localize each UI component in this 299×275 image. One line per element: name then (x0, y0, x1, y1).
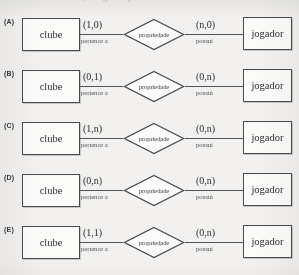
row-label: (E) (4, 226, 14, 233)
connector-line-left (80, 242, 123, 243)
entity-box-clube: clube (22, 174, 80, 207)
cardinality-right: (0,n) (196, 175, 215, 186)
entity-label-clube: clube (40, 185, 63, 196)
relationship-diamond: propriedade (123, 70, 185, 103)
cardinality-left: (0,1) (83, 71, 102, 82)
relationship-label: propriedade (123, 122, 185, 155)
cardinality-left: (1,0) (83, 19, 102, 30)
row-label: (A) (4, 18, 14, 25)
row-label: (B) (4, 70, 14, 77)
entity-label-clube: clube (40, 237, 63, 248)
role-label-right: possui (196, 89, 213, 96)
row-label: (C) (4, 122, 14, 129)
er-diagram-row: (E)clube(1,1)pertence apropriedade(0,n)p… (0, 222, 299, 272)
cardinality-right: (n,0) (196, 19, 215, 30)
er-diagram-row: (A)clube(1,0)pertence apropriedade(n,0)p… (0, 14, 299, 64)
connector-line-right (185, 242, 243, 243)
cardinality-left: (1,n) (83, 123, 102, 134)
entity-box-jogador: jogador (243, 121, 292, 154)
cardinality-left: (0,n) (83, 175, 102, 186)
er-diagram-row: (C)clube(1,n)pertence apropriedade(0,n)p… (0, 118, 299, 168)
entity-box-clube: clube (22, 226, 80, 259)
entity-box-clube: clube (22, 70, 80, 103)
relationship-diamond: propriedade (123, 122, 185, 155)
entity-label-clube: clube (40, 81, 63, 92)
entity-label-clube: clube (40, 133, 63, 144)
connector-line-right (185, 190, 243, 191)
relationship-label: propriedade (123, 70, 185, 103)
role-label-left: pertence a (81, 89, 108, 96)
entity-label-jogador: jogador (251, 184, 283, 195)
entity-label-jogador: jogador (251, 236, 283, 247)
relationship-diamond: propriedade (123, 174, 185, 207)
cardinality-right: (0,n) (196, 123, 215, 134)
role-label-left: pertence a (81, 37, 108, 44)
connector-line-left (80, 86, 123, 87)
role-label-left: pertence a (81, 193, 108, 200)
entity-box-jogador: jogador (243, 225, 292, 258)
entity-label-jogador: jogador (251, 80, 283, 91)
cardinality-right: (0,n) (196, 227, 215, 238)
connector-line-left (80, 190, 123, 191)
cardinality-left: (1,1) (83, 227, 102, 238)
er-diagram-list: (A)clube(1,0)pertence apropriedade(n,0)p… (0, 0, 299, 275)
er-diagram-row: (D)clube(0,n)pertence apropriedade(0,n)p… (0, 170, 299, 220)
cardinality-right: (0,n) (196, 71, 215, 82)
entity-box-clube: clube (22, 122, 80, 155)
connector-line-left (80, 34, 123, 35)
relationship-diamond: propriedade (123, 18, 185, 51)
row-label: (D) (4, 174, 14, 181)
role-label-right: possui (196, 193, 213, 200)
connector-line-left (80, 138, 123, 139)
role-label-right: possui (196, 141, 213, 148)
role-label-right: possui (196, 37, 213, 44)
relationship-label: propriedade (123, 18, 185, 51)
relationship-label: propriedade (123, 174, 185, 207)
role-label-left: pertence a (81, 245, 108, 252)
entity-box-jogador: jogador (243, 17, 292, 50)
entity-box-clube: clube (22, 18, 80, 51)
relationship-diamond: propriedade (123, 226, 185, 259)
entity-label-clube: clube (40, 29, 63, 40)
role-label-right: possui (196, 245, 213, 252)
er-diagram-row: (B)clube(0,1)pertence apropriedade(0,n)p… (0, 66, 299, 116)
connector-line-right (185, 86, 243, 87)
role-label-left: pertence a (81, 141, 108, 148)
connector-line-right (185, 34, 243, 35)
relationship-label: propriedade (123, 226, 185, 259)
connector-line-right (185, 138, 243, 139)
entity-box-jogador: jogador (243, 173, 292, 206)
entity-label-jogador: jogador (251, 132, 283, 143)
entity-box-jogador: jogador (243, 69, 292, 102)
entity-label-jogador: jogador (251, 28, 283, 39)
